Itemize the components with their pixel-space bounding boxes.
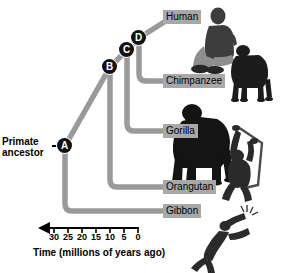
taxon-label-gorilla: Gorilla [163, 124, 198, 138]
primate-phylogeny-figure: Human Chimpanzee Gorilla Orangutan Gibbo… [0, 0, 281, 273]
chimpanzee-photo [231, 45, 273, 102]
time-axis-caption: Time (millions of years ago) [33, 247, 165, 258]
branch-a-to-gibbon [65, 146, 163, 211]
branch-d-to-chimpanzee [139, 38, 163, 81]
primate-ancestor-line-2: ancestor [2, 147, 44, 158]
taxon-label-gibbon: Gibbon [163, 204, 201, 218]
node-badge-a: A [57, 138, 72, 153]
node-badge-b: B [102, 59, 117, 74]
node-badge-c: C [119, 42, 134, 57]
taxon-label-orangutan: Orangutan [163, 180, 216, 194]
taxon-label-human: Human [163, 10, 201, 24]
taxon-label-chimpanzee: Chimpanzee [163, 74, 225, 88]
branch-c-to-gorilla [127, 50, 163, 131]
primate-ancestor-line-1: Primate [2, 136, 44, 147]
branch-a-to-b [65, 67, 110, 146]
branch-b-to-orangutan [110, 67, 163, 187]
axis-tick-label-0: 0 [129, 232, 147, 242]
gorilla-photo [171, 104, 236, 186]
animal-illustrations [171, 8, 273, 273]
primate-ancestor-label: Primate ancestor [2, 136, 44, 158]
node-badge-d: D [131, 30, 146, 45]
